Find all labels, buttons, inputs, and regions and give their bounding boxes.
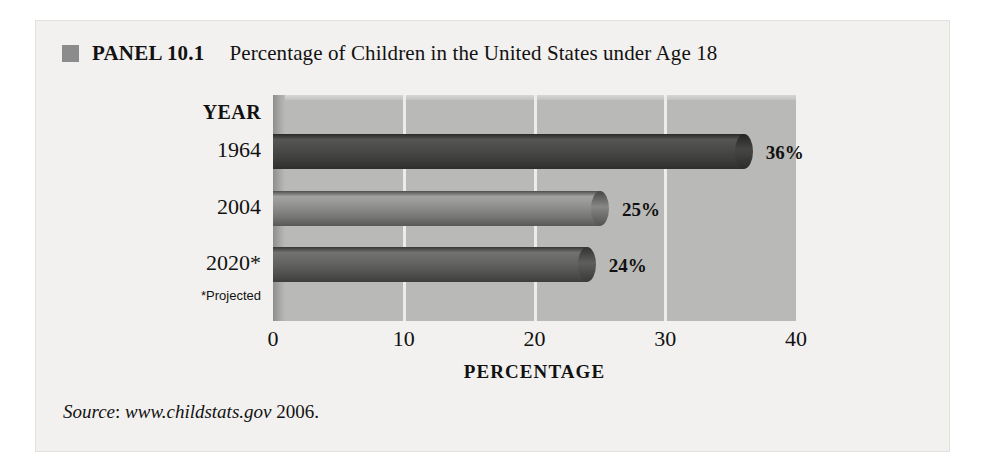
category-label: 2020* <box>146 250 261 276</box>
data-label: 24% <box>609 255 647 277</box>
bar <box>273 134 744 169</box>
x-tick-label: 0 <box>243 326 303 352</box>
source-prefix: Source <box>63 401 115 422</box>
year-axis-header: YEAR <box>156 101 261 124</box>
bar-end-cap <box>578 247 596 282</box>
source-url: www.childstats.gov <box>125 401 271 422</box>
panel-container: PANEL 10.1 Percentage of Children in the… <box>35 20 950 452</box>
bar-body <box>273 134 744 169</box>
data-label: 36% <box>766 142 804 164</box>
source-colon: : <box>115 401 125 422</box>
x-tick-label: 10 <box>374 326 434 352</box>
source-line: Source: www.childstats.gov 2006. <box>63 401 319 423</box>
projected-footnote: *Projected <box>131 288 261 303</box>
bar-body <box>273 247 587 282</box>
bar <box>273 191 600 226</box>
bar-chart: YEAR 196420042020* 36%25%24% *Projected … <box>36 21 951 453</box>
category-label: 2004 <box>146 194 261 220</box>
x-tick-label: 30 <box>635 326 695 352</box>
bar-end-cap <box>735 134 753 169</box>
category-label: 1964 <box>146 137 261 163</box>
x-tick-label: 40 <box>766 326 826 352</box>
source-year: 2006. <box>271 401 319 422</box>
gridline-30 <box>664 95 667 321</box>
x-axis-title: PERCENTAGE <box>273 361 796 383</box>
data-label: 25% <box>622 199 660 221</box>
bar-end-cap <box>591 191 609 226</box>
bar <box>273 247 587 282</box>
bar-body <box>273 191 600 226</box>
x-tick-label: 20 <box>505 326 565 352</box>
